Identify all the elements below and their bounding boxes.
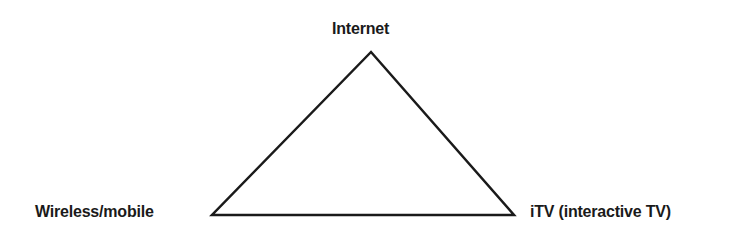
vertex-label-wireless-mobile: Wireless/mobile [35,203,154,221]
vertex-label-itv: iTV (interactive TV) [530,203,671,221]
triangle-outline [212,52,514,215]
convergence-triangle-diagram: Internet Wireless/mobile iTV (interactiv… [0,0,749,245]
vertex-label-internet: Internet [332,20,389,38]
